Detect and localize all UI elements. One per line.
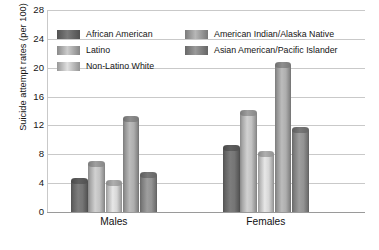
bar xyxy=(140,172,157,212)
bar-top-cap xyxy=(223,145,240,151)
bar-body xyxy=(240,113,257,212)
bar-chart: Suicide attempt rates (per 100) 28242016… xyxy=(0,0,379,250)
legend-label: Non-Latino White xyxy=(86,61,154,71)
bar-body xyxy=(275,65,292,212)
legend-label: American Indian/Alaska Native xyxy=(214,29,334,39)
bar xyxy=(240,110,257,212)
legend-column-1: African AmericanLatinoNon-Latino White xyxy=(57,26,154,74)
y-axis-tick-label: 24 xyxy=(0,34,44,44)
bar-body xyxy=(223,148,240,212)
legend-label: Latino xyxy=(86,45,110,55)
bar-top-cap xyxy=(292,127,309,133)
y-axis-tick-label: 12 xyxy=(0,120,44,130)
legend-item: American Indian/Alaska Native xyxy=(185,26,338,42)
bar xyxy=(223,145,240,212)
y-axis-tick-label: 28 xyxy=(0,5,44,15)
x-axis-group-label: Males xyxy=(71,216,157,227)
bar-top-cap xyxy=(88,161,105,167)
legend-item: Non-Latino White xyxy=(57,58,154,74)
bar xyxy=(258,151,275,212)
bar-body xyxy=(123,119,140,212)
bar-body xyxy=(88,164,105,212)
legend: African AmericanLatinoNon-Latino White A… xyxy=(57,26,357,74)
x-axis-group-label: Females xyxy=(223,216,309,227)
y-axis-tick-label: 0 xyxy=(0,207,44,217)
legend-column-2: American Indian/Alaska NativeAsian Ameri… xyxy=(185,26,338,58)
bar-top-cap xyxy=(71,178,88,184)
legend-label: Asian American/Pacific Islander xyxy=(214,45,338,55)
bar-top-cap xyxy=(240,110,257,116)
legend-item: African American xyxy=(57,26,154,42)
gridline xyxy=(47,212,365,213)
bar-body xyxy=(258,154,275,212)
legend-swatch xyxy=(185,46,208,55)
legend-item: Asian American/Pacific Islander xyxy=(185,42,338,58)
y-axis-tick-label: 4 xyxy=(0,178,44,188)
y-axis-tick-label: 16 xyxy=(0,92,44,102)
legend-item: Latino xyxy=(57,42,154,58)
legend-swatch xyxy=(57,30,80,39)
bar-body xyxy=(140,175,157,212)
bar xyxy=(106,180,123,212)
bar-top-cap xyxy=(123,116,140,122)
bar-body xyxy=(71,181,88,212)
bar-body xyxy=(292,130,309,212)
bar-top-cap xyxy=(106,180,123,186)
bar xyxy=(292,127,309,212)
y-axis-tick-label: 8 xyxy=(0,149,44,159)
y-axis-tick-labels: 2824201612840 xyxy=(0,10,44,212)
bar xyxy=(88,161,105,212)
legend-swatch xyxy=(57,62,80,71)
bar-top-cap xyxy=(258,151,275,157)
bar xyxy=(123,116,140,212)
bar xyxy=(275,62,292,212)
bar-top-cap xyxy=(140,172,157,178)
legend-label: African American xyxy=(86,29,153,39)
bar-body xyxy=(106,183,123,212)
bar xyxy=(71,178,88,212)
legend-swatch xyxy=(57,46,80,55)
legend-swatch xyxy=(185,30,208,39)
y-axis-tick-label: 20 xyxy=(0,63,44,73)
